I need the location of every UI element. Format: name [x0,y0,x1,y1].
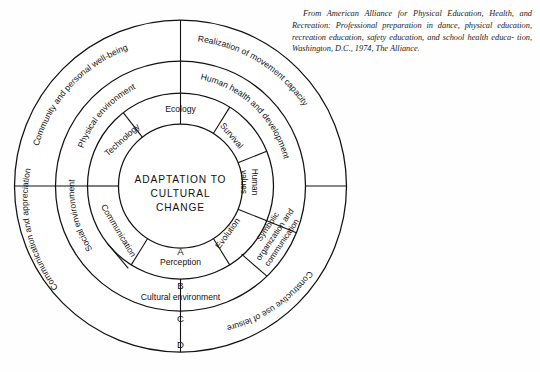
citation-line-3: recreation education, safety education, … [292,33,514,42]
marker-c: C [177,313,184,324]
marker-a: A [177,246,184,257]
center-label-line1: ADAPTATION TO [135,174,227,185]
center-label-line3: CHANGE [156,202,205,213]
marker-d: D [177,339,184,350]
inner-label-perception: Perception [160,257,201,267]
source-citation: From American Alliance for Physical Educ… [292,8,532,55]
inner-label-human-values-line1: Human [250,169,259,196]
citation-line-2: Recreation: Professional preparation in … [292,21,532,30]
inner-label-human-values-line2: values [239,170,248,194]
marker-b: B [177,280,183,291]
middle-label-cultural-environment: Cultural environment [141,292,221,302]
page-canvas: Ecology Survival Human values Evolution … [0,0,540,372]
citation-line-1: From American Alliance for Physical Educ… [303,9,532,18]
adaptation-wheel-diagram: Ecology Survival Human values Evolution … [0,0,380,372]
inner-label-ecology: Ecology [165,104,196,114]
center-label-line2: CULTURAL [150,188,210,199]
